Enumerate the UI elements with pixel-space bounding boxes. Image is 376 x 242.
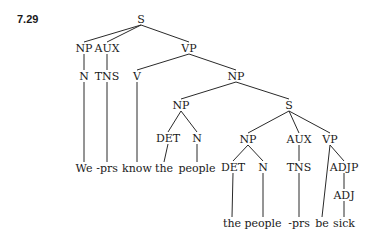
tree-edge	[168, 111, 181, 132]
tree-edge	[289, 111, 330, 133]
tree-edge	[189, 54, 236, 70]
terminal-word: know	[122, 163, 152, 174]
terminal-word: the	[223, 218, 241, 229]
tree-edge	[164, 144, 168, 162]
tree-node-n: N	[258, 162, 268, 173]
tree-node-tns: TNS	[95, 71, 120, 82]
tree-edge	[232, 173, 233, 217]
tree-node-np: NP	[172, 100, 189, 111]
terminal-word: be	[315, 218, 329, 229]
tree-node-v: V	[133, 71, 141, 82]
tree-edge	[322, 145, 330, 217]
tree-node-adj: ADJ	[333, 190, 354, 201]
tree-edge	[141, 25, 189, 42]
tree-edge	[236, 82, 289, 99]
tree-edge	[233, 145, 248, 161]
tree-edge	[181, 82, 236, 99]
tree-node-np: NP	[227, 71, 244, 82]
tree-node-np: NP	[75, 43, 92, 54]
tree-node-vp: VP	[322, 134, 337, 145]
tree-edge	[248, 145, 263, 161]
tree-node-det: DET	[221, 162, 245, 173]
tree-node-np: NP	[239, 134, 256, 145]
tree-node-n: N	[79, 71, 89, 82]
tree-edge	[181, 111, 197, 132]
tree-edge	[330, 145, 344, 161]
terminal-word: people	[244, 218, 281, 229]
terminal-word: -prs	[96, 163, 118, 174]
syntax-tree-edges	[0, 0, 376, 242]
terminal-word: the	[155, 163, 173, 174]
tree-node-aux: AUX	[94, 43, 119, 54]
terminal-word: sick	[333, 218, 355, 229]
tree-node-s: S	[285, 100, 293, 111]
tree-node-s: S	[137, 14, 145, 25]
tree-node-aux: AUX	[286, 134, 311, 145]
tree-node-vp: VP	[181, 43, 196, 54]
tree-node-n: N	[192, 133, 202, 144]
tree-node-adjp: ADJP	[330, 162, 359, 173]
tree-edge	[137, 54, 189, 70]
terminal-word: people	[178, 163, 215, 174]
tree-edge	[248, 111, 289, 133]
terminal-word: We	[76, 163, 93, 174]
tree-node-tns: TNS	[287, 162, 312, 173]
tree-node-det: DET	[156, 133, 180, 144]
terminal-word: -prs	[288, 218, 310, 229]
tree-edge	[289, 111, 299, 133]
